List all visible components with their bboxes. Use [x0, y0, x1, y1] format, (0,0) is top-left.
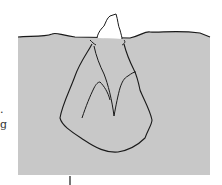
iceberg-tip — [97, 14, 122, 39]
water-body — [18, 32, 210, 175]
iceberg-illustration — [0, 0, 222, 185]
